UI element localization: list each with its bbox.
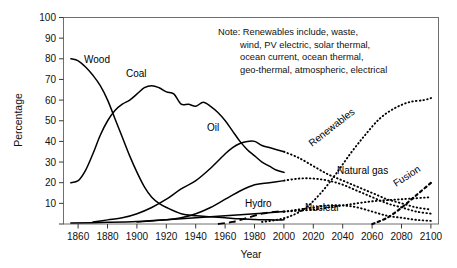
y-tick-100: 100 (39, 12, 56, 23)
chart-svg: 10 20 30 40 50 60 70 80 90 100 (0, 0, 457, 268)
x-tick-2020: 2020 (302, 231, 325, 242)
x-tick-2080: 2080 (390, 231, 413, 242)
y-tick-40: 40 (45, 136, 57, 147)
x-tick-2040: 2040 (332, 231, 355, 242)
label-fusion: Fusion (391, 163, 422, 189)
series-wood (71, 59, 284, 220)
label-coal: Coal (126, 68, 147, 79)
label-hydro: Hydro (245, 198, 272, 209)
label-nuclear: Nuclear (305, 202, 340, 213)
y-tick-50: 50 (45, 115, 57, 126)
series-coal (71, 86, 284, 183)
x-tick-1980: 1980 (243, 231, 266, 242)
x-tick-1900: 1900 (126, 231, 149, 242)
y-tick-labels: 10 20 30 40 50 60 70 80 90 100 (39, 12, 56, 209)
x-tick-1920: 1920 (155, 231, 178, 242)
y-axis-title: Percentage (12, 93, 24, 147)
x-tick-1960: 1960 (214, 231, 237, 242)
y-axis-ticks (59, 18, 64, 225)
series-oil (93, 141, 284, 222)
label-wood: Wood (84, 54, 110, 65)
y-tick-60: 60 (45, 95, 57, 106)
note-line-3: ocean current, ocean thermal, (240, 52, 364, 62)
note-line-1: Note: Renewables include, waste, (218, 27, 358, 37)
label-natural-gas: Natural gas (337, 165, 388, 176)
y-tick-90: 90 (45, 33, 57, 44)
x-tick-1940: 1940 (185, 231, 208, 242)
energy-transition-chart: 10 20 30 40 50 60 70 80 90 100 (0, 0, 457, 268)
x-tick-1860: 1860 (67, 231, 90, 242)
x-axis-title: Year (240, 248, 262, 260)
note-line-2: wind, PV electric, solar thermal, (239, 40, 370, 50)
y-tick-70: 70 (45, 74, 57, 85)
x-tick-1880: 1880 (96, 231, 119, 242)
note-annotation: Note: Renewables include, waste, wind, P… (218, 27, 387, 75)
x-tick-2000: 2000 (273, 231, 296, 242)
y-tick-20: 20 (45, 177, 57, 188)
x-tick-2100: 2100 (420, 231, 443, 242)
label-renewables: Renewables (306, 106, 356, 149)
y-tick-80: 80 (45, 53, 57, 64)
x-axis-ticks (78, 224, 431, 229)
note-line-4: geo-thermal, atmospheric, electrical (240, 65, 387, 75)
x-tick-labels: 1860 1880 1900 1920 1940 1960 1980 2000 … (67, 231, 442, 242)
series-labels: Wood Coal Oil Hydro Nuclear Natural gas … (84, 54, 422, 213)
y-tick-10: 10 (45, 198, 57, 209)
y-tick-30: 30 (45, 157, 57, 168)
x-tick-2060: 2060 (361, 231, 384, 242)
label-oil: Oil (207, 122, 219, 133)
